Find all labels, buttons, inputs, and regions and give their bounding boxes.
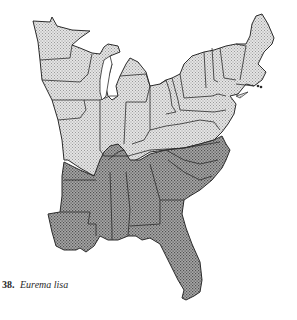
distribution-map <box>0 0 297 320</box>
cape-cod-dot <box>257 85 260 88</box>
species-name: Eurema lisa <box>20 279 68 290</box>
cape-cod-dot <box>260 86 263 89</box>
figure-caption: 38. Eurema lisa <box>2 279 68 290</box>
figure-number: 38. <box>2 279 15 290</box>
northern-region <box>33 14 274 176</box>
